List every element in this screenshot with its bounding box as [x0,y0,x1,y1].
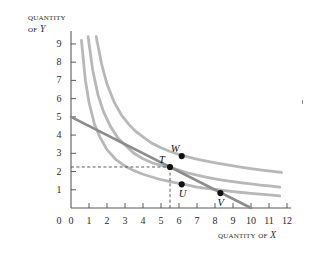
x-tick-label: 9 [226,215,240,226]
point-label-t: T [159,154,165,165]
x-tick-label: 8 [208,215,222,226]
indifference-curve [96,37,281,173]
y-tick-label: 8 [52,56,66,67]
y-tick-label: 0 [52,215,66,226]
indifference-curve [88,37,280,187]
y-tick-label: 6 [52,93,66,104]
x-tick-label: 11 [262,215,276,226]
x-tick-label: 12 [280,215,294,226]
y-tick-label: 1 [52,184,66,195]
data-point-t [167,164,173,170]
point-label-v: V [217,197,223,208]
x-tick-label: 0 [64,215,78,226]
x-tick-label: 2 [100,215,114,226]
indifference-curve-figure: Quantity of Y Quantity of X 012345678910… [0,0,329,255]
data-point-v [217,190,223,196]
x-tick-label: 10 [244,215,258,226]
x-tick-label: 1 [82,215,96,226]
y-tick-label: 5 [52,111,66,122]
data-point-u [179,181,185,187]
data-point-w [179,153,185,159]
x-tick-label: 5 [154,215,168,226]
y-tick-label: 4 [52,129,66,140]
x-tick-label: 7 [190,215,204,226]
annotation-dashed-lines [71,167,170,208]
y-tick-label: 2 [52,166,66,177]
x-tick-label: 4 [136,215,150,226]
y-tick-label: 7 [52,74,66,85]
point-label-w: W [171,143,180,154]
point-label-u: U [179,188,187,199]
x-tick-label: 3 [118,215,132,226]
page-speck-artifact [302,100,303,104]
y-tick-label: 9 [52,38,66,49]
y-tick-label: 3 [52,147,66,158]
x-tick-label: 6 [172,215,186,226]
